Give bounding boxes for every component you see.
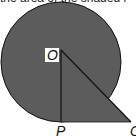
label-q: Q (130, 123, 136, 136)
label-p: P (56, 123, 66, 136)
shaded-region-figure: O P Q (0, 0, 136, 136)
label-o: O (47, 47, 58, 63)
diagram-canvas: the area of the shaded r O P Q (0, 0, 136, 136)
